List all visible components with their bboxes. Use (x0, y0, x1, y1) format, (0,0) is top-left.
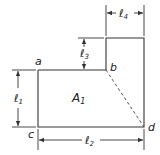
label-l4: ℓ4 (118, 7, 128, 21)
point-label-d: d (148, 121, 156, 134)
label-l2: ℓ2 (84, 134, 95, 148)
shape-outline (38, 38, 144, 127)
point-label-a: a (35, 55, 42, 68)
area-label-a1: A1 (71, 91, 85, 106)
label-l3: ℓ3 (79, 47, 89, 61)
dashed-diagonal-bd (106, 70, 144, 127)
label-l1: ℓ1 (13, 92, 23, 106)
area-diagram: ℓ4 ℓ3 ℓ1 ℓ2 a b c d A1 (0, 0, 160, 155)
point-label-c: c (28, 128, 34, 141)
point-label-b: b (110, 61, 117, 74)
